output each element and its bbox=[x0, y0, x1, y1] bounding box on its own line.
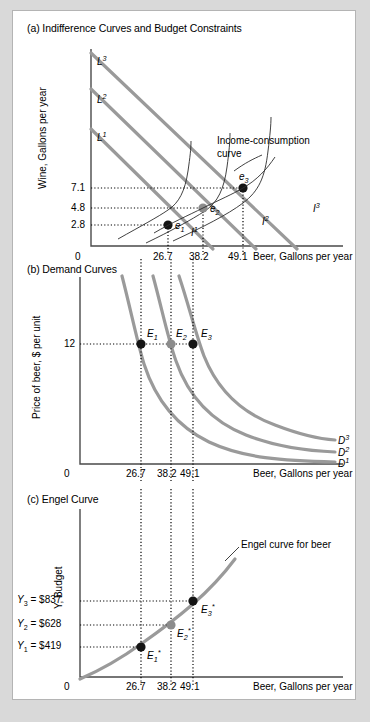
panel-b-xtick-26-7: 26.7 bbox=[126, 468, 145, 479]
panel-b-plot bbox=[13, 259, 357, 491]
panel-c-axes bbox=[80, 509, 343, 677]
income-consumption-curve-annotation: Income-consumption curve bbox=[217, 135, 310, 160]
label-point-E2-sub: 2 bbox=[183, 333, 187, 342]
label-indifference-curve-I3-sup: 3 bbox=[316, 201, 320, 210]
panel-c-ytick-837-sub: 3 bbox=[24, 599, 28, 608]
label-point-E3-sub: 3 bbox=[208, 333, 212, 342]
label-point-E2-star-mark: * bbox=[188, 626, 191, 635]
panel-a-indifference-curves: (a) Indifference Curves and Budget Const… bbox=[13, 11, 357, 261]
label-indifference-curve-I3: I3 bbox=[313, 201, 320, 216]
label-indifference-curve-I1: I1 bbox=[191, 225, 198, 240]
label-demand-curve-D2-sup: 2 bbox=[345, 445, 349, 454]
panel-c-ytick-628-sub: 2 bbox=[24, 623, 28, 632]
panel-c-ytick-837: Y3 = $837 bbox=[17, 594, 61, 608]
panel-a-ytick-7-1: 7.1 bbox=[60, 182, 85, 193]
income-consumption-curve-annotation-line2: curve bbox=[217, 148, 310, 161]
panel-b-y-axis-label: Price of beer, $ per unit bbox=[31, 316, 42, 419]
label-budget-line-L2-sup: 2 bbox=[103, 92, 107, 101]
panel-c-ytick-628-var: Y bbox=[17, 618, 24, 629]
panel-a-ytick-2-8: 2.8 bbox=[60, 219, 85, 230]
label-point-e3: e3 bbox=[239, 171, 249, 185]
panel-c-xtick-49-1: 49.1 bbox=[180, 681, 199, 692]
label-demand-curve-D1-sup: 1 bbox=[345, 456, 349, 465]
label-point-E1-star-text: E bbox=[147, 650, 154, 661]
label-indifference-curve-I1-sup: 1 bbox=[194, 225, 198, 234]
point-E3 bbox=[188, 339, 197, 348]
panel-c-origin-label: 0 bbox=[64, 681, 70, 692]
label-point-E3: E3 bbox=[201, 328, 212, 342]
panel-c-ytick-837-var: Y bbox=[17, 594, 24, 605]
panel-b-origin-label: 0 bbox=[64, 468, 70, 479]
label-indifference-curve-I2-sup: 2 bbox=[265, 214, 269, 223]
label-point-E1-star-mark: * bbox=[158, 648, 161, 657]
panel-c-engel-curve: (c) Engel Curve Y, B bbox=[13, 489, 357, 701]
panel-a-y-axis-label: Wine, Gallons per year bbox=[37, 87, 48, 189]
label-point-E2: E2 bbox=[176, 328, 187, 342]
label-budget-line-L3-sup: 3 bbox=[103, 54, 107, 63]
panel-a-ytick-4-8: 4.8 bbox=[60, 202, 85, 213]
label-point-E1: E1 bbox=[147, 328, 158, 342]
label-indifference-curve-I2: I2 bbox=[262, 214, 269, 229]
panel-c-ytick-419-sub: 1 bbox=[24, 645, 28, 654]
label-point-E3-star-mark: * bbox=[212, 602, 215, 611]
demand-curve-D3 bbox=[179, 276, 335, 440]
demand-curve-D2 bbox=[153, 276, 335, 452]
panel-c-ytick-628: Y2 = $628 bbox=[17, 618, 61, 632]
label-point-E2-text: E bbox=[176, 328, 183, 339]
label-budget-line-L1: L1 bbox=[97, 130, 107, 145]
label-point-E1-text: E bbox=[147, 328, 154, 339]
label-point-E1-sub: 1 bbox=[154, 333, 158, 342]
panel-c-xtick-38-2: 38.2 bbox=[157, 681, 176, 692]
panel-b-xtick-38-2: 38.2 bbox=[157, 468, 176, 479]
label-demand-curve-D3-sup: 3 bbox=[345, 433, 349, 442]
label-demand-curve-D1: D1 bbox=[338, 456, 349, 471]
label-point-E2-star-text: E bbox=[177, 628, 184, 639]
panel-c-plot bbox=[13, 489, 357, 701]
panel-c-x-axis-label: Beer, Gallons per year bbox=[253, 681, 353, 692]
label-point-E2-star: E2* bbox=[177, 626, 190, 642]
label-budget-line-L1-sup: 1 bbox=[103, 130, 107, 139]
label-point-E3-star-text: E bbox=[201, 604, 208, 615]
point-E3-star bbox=[188, 596, 197, 605]
label-point-E3-text: E bbox=[201, 328, 208, 339]
panel-c-ytick-628-value: = $628 bbox=[30, 618, 61, 629]
point-E2 bbox=[166, 339, 175, 348]
panel-c-ytick-419: Y1 = $419 bbox=[17, 640, 61, 654]
panel-c-ytick-419-var: Y bbox=[17, 640, 24, 651]
label-point-e1: e1 bbox=[175, 220, 185, 234]
point-E1 bbox=[136, 339, 145, 348]
label-point-E3-star: E3* bbox=[201, 602, 214, 618]
budget-line-L2 bbox=[91, 89, 256, 249]
panel-c-xtick-26-7: 26.7 bbox=[126, 681, 145, 692]
panel-c-ytick-419-value: = $419 bbox=[30, 640, 61, 651]
figure-panel: (a) Indifference Curves and Budget Const… bbox=[12, 10, 356, 700]
label-point-e2: e2 bbox=[210, 203, 220, 217]
engel-curve-annotation: Engel curve for beer bbox=[241, 539, 331, 552]
label-point-e3-sub: 3 bbox=[245, 176, 249, 185]
label-budget-line-L3: L3 bbox=[97, 54, 107, 69]
label-budget-line-L2: L2 bbox=[97, 92, 107, 107]
panel-c-ytick-837-value: = $837 bbox=[30, 594, 61, 605]
panel-b-ytick-12: 12 bbox=[57, 338, 75, 349]
engel-annotation-leader bbox=[225, 547, 239, 561]
label-point-E1-star: E1* bbox=[147, 648, 160, 664]
figure-root: (a) Indifference Curves and Budget Const… bbox=[0, 0, 370, 722]
panel-b-demand-curves: (b) Demand Curves Pri bbox=[13, 259, 357, 491]
panel-b-xtick-49-1: 49.1 bbox=[180, 468, 199, 479]
point-E2-star bbox=[166, 620, 175, 629]
label-point-e1-sub: 1 bbox=[181, 225, 185, 234]
income-consumption-curve-annotation-line1: Income-consumption bbox=[217, 135, 310, 148]
label-point-e2-sub: 2 bbox=[216, 208, 220, 217]
point-E1-star bbox=[136, 642, 145, 651]
